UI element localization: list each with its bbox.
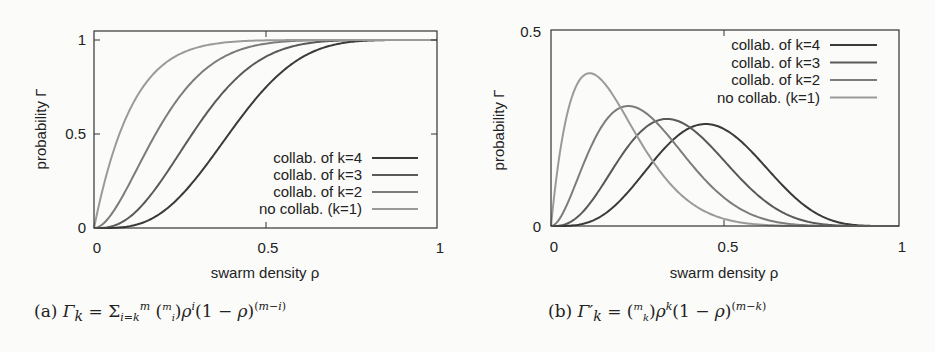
legend-label-k3: collab. of k=3 xyxy=(273,166,362,183)
caption-b-formula: Γ′k = (mk)ρk(1 − ρ)(m−k) xyxy=(578,301,767,321)
caption-b: (b) Γ′k = (mk)ρk(1 − ρ)(m−k) xyxy=(548,300,766,324)
chart-a-ytick-1: 1 xyxy=(78,31,86,48)
chart-a-xlabel: swarm density ρ xyxy=(211,264,320,281)
panel-a-cumulative-probability-chart: 1 0.5 0 0 0.5 1 swarm density ρ probabil… xyxy=(32,31,444,281)
chart-b-xtick-0: 0 xyxy=(550,238,558,255)
chart-b-frame xyxy=(551,30,899,226)
caption-b-label: (b) xyxy=(548,301,572,321)
chart-b-xlabel: swarm density ρ xyxy=(670,264,779,281)
chart-a-xtick-0: 0 xyxy=(93,239,101,256)
chart-a-frame xyxy=(94,31,437,228)
curve-k4 xyxy=(551,124,899,226)
legend-label-k2: collab. of k=2 xyxy=(273,183,362,200)
caption-a-label: (a) xyxy=(34,301,57,321)
chart-a-ytick-0.5: 0.5 xyxy=(65,125,86,142)
chart-a-xtick-0.5: 0.5 xyxy=(258,239,279,256)
legend-label-k1: no collab. (k=1) xyxy=(717,89,820,106)
chart-b-xtick-0.5: 0.5 xyxy=(718,238,739,255)
chart-a-ticks xyxy=(94,31,437,228)
chart-b-legend: collab. of k=4collab. of k=3collab. of k… xyxy=(717,36,877,106)
legend-label-k4: collab. of k=4 xyxy=(273,149,362,166)
curve-k2 xyxy=(551,106,899,226)
legend-label-k3: collab. of k=3 xyxy=(731,54,820,71)
legend-label-k2: collab. of k=2 xyxy=(731,71,820,88)
chart-b-ylabel: probability Γ xyxy=(490,90,507,171)
caption-a: (a) Γk = Σi=km (mi)ρi(1 − ρ)(m−i) xyxy=(34,300,286,324)
curve-k3 xyxy=(551,119,899,226)
legend-label-k4: collab. of k=4 xyxy=(731,36,820,53)
legend-label-k1: no collab. (k=1) xyxy=(259,200,362,217)
caption-a-formula: Γk = Σi=km (mi)ρi(1 − ρ)(m−i) xyxy=(63,301,286,321)
chart-a-legend: collab. of k=4collab. of k=3collab. of k… xyxy=(259,149,418,217)
chart-b-ytick-0.5: 0.5 xyxy=(520,23,541,40)
chart-b-ytick-0: 0 xyxy=(533,218,541,235)
chart-a-xtick-1: 1 xyxy=(436,239,444,256)
chart-a-ytick-0: 0 xyxy=(78,219,86,236)
chart-b-xtick-1: 1 xyxy=(898,238,906,255)
chart-a-ylabel: probability Γ xyxy=(32,89,49,170)
panel-b-exact-probability-chart: 0.5 0 0 0.5 1 swarm density ρ probabilit… xyxy=(490,23,906,281)
